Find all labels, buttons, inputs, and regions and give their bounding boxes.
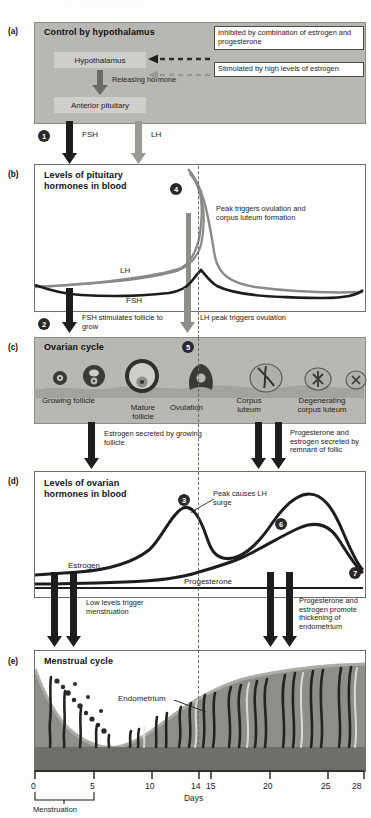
lh-output-label: LH xyxy=(151,131,161,140)
menstruation-bracket-icon xyxy=(34,791,102,803)
step-marker-2: 2 xyxy=(38,318,50,330)
axis-tick-0: 0 xyxy=(31,781,36,791)
lh-curve-label: LH xyxy=(120,267,130,276)
ovulation-guideline-bc xyxy=(198,312,199,338)
ovulation-guideline-cd xyxy=(198,424,199,470)
fsh-output-arrow-icon xyxy=(62,121,78,165)
ovarian-follicle-illustrations xyxy=(34,356,364,398)
progesterone-curve-label: Progesterone xyxy=(184,578,232,587)
lh-peak-label: LH peak triggers ovulation xyxy=(200,314,292,323)
stage-label-degenerating-corpus-luteum: Degenerating corpus luteum xyxy=(286,397,358,414)
progesterone-secreted-arrow-icon-1 xyxy=(251,422,267,470)
hypothalamus-box: Hypothalamus xyxy=(54,52,146,68)
estrogen-curve-label: Estrogen xyxy=(68,562,100,571)
anterior-pituitary-label: Anterior pituitary xyxy=(71,101,129,110)
step-marker-1: 1 xyxy=(38,130,50,142)
endometrium-thickening-arrow-icon-1 xyxy=(263,572,279,648)
panel-b-curves xyxy=(35,165,363,309)
stage-label-mature-follicle: Mature follicle xyxy=(124,404,162,421)
low-levels-arrow-icon-2 xyxy=(66,572,82,648)
step-marker-5: 5 xyxy=(182,341,194,353)
endometrium-pointer-icon xyxy=(174,698,210,714)
top-faint-artifact: . .. . .. . .. xyxy=(70,2,310,10)
callout-inhibited: Inhibited by combination of estrogen and… xyxy=(214,26,364,50)
callout-stimulated: Stimulated by high levels of estrogen xyxy=(214,62,364,77)
axis-tick-15: 15 xyxy=(206,781,216,791)
endometrium-thickening-arrow-icon-2 xyxy=(282,572,298,648)
panel-letter-c: (c) xyxy=(8,343,18,352)
inhibition-feedback-arrow-icon xyxy=(148,54,216,64)
lh-peak-arrow-icon xyxy=(180,288,196,334)
estrogen-secreted-arrow-icon xyxy=(84,422,100,470)
axis-tick-20: 20 xyxy=(263,781,273,791)
ovulation-guideline-de xyxy=(198,598,199,648)
figure-menstrual-cycle: . .. . .. . .. (a) Control by hypothalam… xyxy=(0,0,371,818)
axis-label-days: Days xyxy=(184,793,203,803)
ovulation-guideline-b xyxy=(198,166,199,310)
stage-label-corpus-luteum: Corpus luteum xyxy=(232,397,266,414)
estrogen-secreted-label: Estrogen secreted by growing follicle xyxy=(104,430,204,447)
ovulation-guideline-d xyxy=(198,472,199,596)
axis-tick-5: 5 xyxy=(90,781,95,791)
axis-tick-28: 28 xyxy=(352,781,362,791)
axis-tick-10: 10 xyxy=(145,781,155,791)
stimulation-feedback-arrow-icon xyxy=(148,70,216,80)
endometrium-thickening-label: Progesterone and estrogen promote thicke… xyxy=(299,597,371,631)
releasing-hormone-arrow-icon xyxy=(92,70,110,96)
ovulation-guideline-c xyxy=(198,338,199,422)
fsh-stimulates-label: FSH stimulates follicle to grow xyxy=(82,314,174,331)
fsh-output-label: FSH xyxy=(82,131,98,140)
low-levels-trigger-label: Low levels trigger menstruation xyxy=(86,599,182,616)
low-levels-arrow-icon-1 xyxy=(47,572,63,648)
fsh-curve-label: FSH xyxy=(126,297,142,306)
anterior-pituitary-box: Anterior pituitary xyxy=(54,97,146,113)
panel-c-title: Ovarian cycle xyxy=(44,342,104,353)
panel-e-title: Menstrual cycle xyxy=(44,656,113,667)
panel-letter-a: (a) xyxy=(8,27,18,36)
progesterone-secreted-label: Progesterone and estrogen secreted by re… xyxy=(290,429,371,455)
fsh-stimulates-arrow-icon xyxy=(62,288,78,334)
progesterone-secreted-arrow-icon-2 xyxy=(271,422,287,470)
panel-a-title: Control by hypothalamus xyxy=(44,27,234,38)
ovulation-guideline-e xyxy=(198,650,199,770)
lh-output-arrow-icon xyxy=(131,121,147,165)
panel-letter-d: (d) xyxy=(8,477,18,486)
panel-letter-b: (b) xyxy=(8,170,18,179)
stage-label-growing-follicle: Growing follicle xyxy=(42,397,95,406)
menstruation-bracket-label: Menstruation xyxy=(33,805,77,814)
hypothalamus-label: Hypothalamus xyxy=(74,56,125,65)
axis-tick-14: 14 xyxy=(191,781,201,791)
endometrium-label: Endometrium xyxy=(118,695,166,704)
panel-letter-e: (e) xyxy=(8,657,18,666)
axis-tick-25: 25 xyxy=(321,781,331,791)
